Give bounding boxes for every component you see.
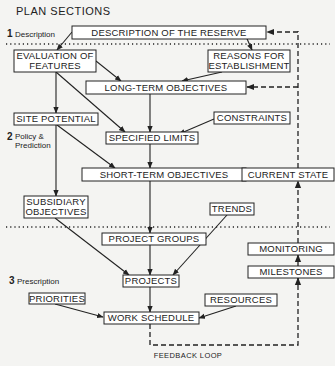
node-short-term: SHORT-TERM OBJECTIVES bbox=[82, 168, 246, 181]
node-resources: RESOURCES bbox=[205, 294, 277, 306]
node-description: DESCRIPTION OF THE RESERVE bbox=[72, 26, 266, 39]
section-2-label-line1: Policy & bbox=[15, 132, 45, 141]
edge-resources-workschedule bbox=[199, 306, 236, 318]
node-reasons: REASONS FOR ESTABLISHMENT bbox=[208, 50, 290, 72]
node-specified-limits-label: SPECIFIED LIMITS bbox=[109, 132, 196, 143]
node-subsidiary: SUBSIDIARY OBJECTIVES bbox=[24, 196, 88, 218]
node-site-potential: SITE POTENTIAL bbox=[14, 113, 98, 125]
node-projects-label: PROJECTS bbox=[125, 275, 177, 286]
node-project-groups-label: PROJECT GROUPS bbox=[109, 233, 200, 244]
node-work-schedule-label: WORK SCHEDULE bbox=[108, 312, 195, 323]
node-reasons-line2: ESTABLISHMENT bbox=[208, 60, 289, 71]
edge-priorities-workschedule bbox=[55, 304, 103, 317]
node-constraints: CONSTRAINTS bbox=[214, 112, 290, 124]
node-priorities-label: PRIORITIES bbox=[29, 293, 85, 304]
node-site-potential-label: SITE POTENTIAL bbox=[16, 113, 95, 124]
node-constraints-label: CONSTRAINTS bbox=[217, 112, 287, 123]
node-current-state: CURRENT STATE bbox=[242, 168, 334, 181]
node-priorities: PRIORITIES bbox=[29, 293, 85, 304]
node-evaluation-line2: FEATURES bbox=[29, 60, 81, 71]
node-long-term-label: LONG-TERM OBJECTIVES bbox=[105, 82, 228, 93]
section-1-label: Description bbox=[15, 30, 55, 39]
node-description-label: DESCRIPTION OF THE RESERVE bbox=[91, 27, 246, 38]
node-short-term-label: SHORT-TERM OBJECTIVES bbox=[100, 169, 229, 180]
edge-subsidiary-projects bbox=[55, 218, 129, 275]
section-2-number: 2 bbox=[7, 131, 13, 142]
node-evaluation: EVALUATION OF FEATURES bbox=[14, 50, 96, 72]
section-3-number: 3 bbox=[9, 275, 15, 286]
node-milestones-label: MILESTONES bbox=[259, 266, 322, 277]
section-1-number: 1 bbox=[7, 28, 13, 39]
node-project-groups: PROJECT GROUPS bbox=[102, 233, 206, 245]
node-resources-label: RESOURCES bbox=[210, 294, 272, 305]
node-subsidiary-line2: OBJECTIVES bbox=[25, 206, 86, 217]
node-long-term: LONG-TERM OBJECTIVES bbox=[86, 81, 246, 94]
edge-sitepotential-shortterm bbox=[57, 125, 115, 168]
node-current-state-label: CURRENT STATE bbox=[248, 169, 329, 180]
feedback-loop-label: FEEDBACK LOOP bbox=[154, 351, 223, 360]
node-specified-limits: SPECIFIED LIMITS bbox=[106, 132, 198, 144]
section-3-label: Prescription bbox=[17, 277, 59, 286]
edge-description-evaluation bbox=[57, 32, 72, 50]
section-2-label-line2: Prediction bbox=[15, 141, 51, 150]
node-projects: PROJECTS bbox=[123, 275, 179, 287]
node-trends-label: TRENDS bbox=[212, 203, 252, 214]
node-trends: TRENDS bbox=[210, 203, 254, 215]
plan-sections-diagram: PLAN SECTIONS 1 Description 2 Policy & P… bbox=[0, 0, 335, 366]
node-monitoring-label: MONITORING bbox=[259, 243, 323, 254]
node-monitoring: MONITORING bbox=[248, 243, 334, 255]
edge-evaluation-longterm bbox=[96, 61, 121, 81]
node-work-schedule: WORK SCHEDULE bbox=[104, 312, 199, 324]
diagram-title: PLAN SECTIONS bbox=[16, 5, 111, 17]
edge-reasons-longterm bbox=[182, 72, 222, 81]
node-milestones: MILESTONES bbox=[248, 266, 334, 278]
